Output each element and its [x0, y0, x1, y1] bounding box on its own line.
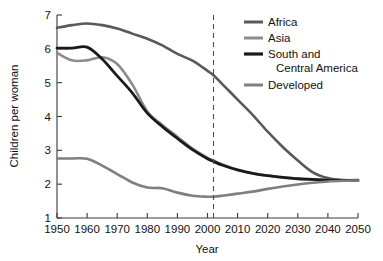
x-tick-label: 1960 — [74, 223, 100, 235]
x-tick-label: 2040 — [315, 223, 341, 235]
x-tick-label: 1980 — [135, 223, 161, 235]
x-tick-label: 2020 — [255, 223, 281, 235]
y-tick-label: 5 — [45, 77, 51, 89]
x-tick-label: 2050 — [345, 223, 371, 235]
y-tick-label: 3 — [45, 144, 51, 156]
y-tick-label: 7 — [45, 9, 51, 21]
x-axis-title: Year — [195, 243, 218, 255]
x-tick-label: 1990 — [165, 223, 191, 235]
legend-label: South and — [268, 48, 320, 60]
fertility-rate-line-chart: Children per woman Year 1234567 19501960… — [0, 0, 383, 261]
legend-label: Developed — [268, 79, 323, 91]
y-tick-label: 6 — [45, 43, 51, 55]
y-tick-label: 4 — [45, 111, 52, 123]
x-tick-label: 2010 — [225, 223, 251, 235]
legend-label: Asia — [268, 32, 291, 44]
y-tick-label: 2 — [45, 178, 51, 190]
y-axis-title: Children per woman — [8, 65, 20, 168]
x-tick-label: 1950 — [44, 223, 70, 235]
x-tick-label: 2030 — [285, 223, 311, 235]
chart-canvas: Children per woman Year 1234567 19501960… — [0, 0, 383, 261]
legend-label: Africa — [268, 16, 298, 28]
legend-label: Central America — [276, 62, 358, 74]
x-tick-label: 1970 — [104, 223, 130, 235]
plot-background — [57, 15, 358, 218]
x-tick-label: 2000 — [195, 223, 221, 235]
